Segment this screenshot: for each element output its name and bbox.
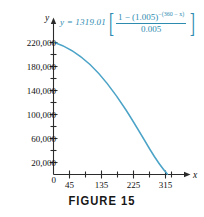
equation-lhs: y = 1319.01 — [60, 18, 106, 27]
figure-container: y = 1319.01 [ 1 − (1.005)−(360 − x) 0.00… — [0, 0, 204, 217]
x-tick-label-225: 225 — [127, 180, 141, 190]
equation-annotation: y = 1319.01 [ 1 − (1.005)−(360 − x) 0.00… — [60, 11, 196, 34]
y-tick-label-20000: 20,000 — [31, 158, 56, 168]
bracket-open-icon: [ — [109, 12, 114, 34]
figure-caption: FIGURE 15 — [14, 193, 189, 208]
y-tick-label-140000: 140,000 — [27, 86, 56, 96]
numerator-exponent: −(360 − x) — [158, 11, 184, 17]
x-tick-label-135: 135 — [95, 180, 109, 190]
x-tick-label-45: 45 — [65, 180, 74, 190]
y-axis-name: y — [45, 13, 49, 23]
curve-path — [55, 43, 168, 175]
equation-denominator: 0.005 — [116, 23, 186, 34]
y-tick-label-180000: 180,000 — [27, 62, 56, 72]
x-axis-name: x — [193, 170, 197, 180]
equation-fraction: 1 − (1.005)−(360 − x) 0.005 — [116, 11, 186, 34]
y-tick-label-60000: 60,000 — [31, 134, 56, 144]
y-tick-label-100000: 100,000 — [27, 110, 56, 120]
x-tick-label-315: 315 — [159, 180, 173, 190]
equation-numerator: 1 − (1.005)−(360 − x) — [116, 11, 186, 23]
x-axis — [54, 172, 191, 177]
y-tick-label-origin: 0 — [52, 175, 57, 185]
numerator-base: 1 − (1.005) — [118, 12, 158, 22]
y-tick-label-220000: 220,000 — [27, 38, 56, 48]
bracket-close-icon: ] — [190, 12, 195, 34]
